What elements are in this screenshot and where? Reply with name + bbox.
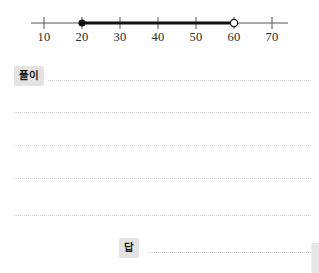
writing-rule-line	[14, 215, 311, 216]
writing-rule-line	[14, 112, 311, 113]
number-line-diagram: 10 20 30 40 50 60 70	[0, 0, 319, 52]
tick-label-10: 10	[37, 30, 50, 45]
open-endpoint-circle	[230, 19, 237, 26]
tick-label-70: 70	[265, 30, 278, 45]
worksheet-answer-area: 풀이 답	[0, 52, 319, 273]
closed-endpoint-dot	[78, 19, 85, 26]
tick-label-50: 50	[189, 30, 202, 45]
writing-rule-line	[48, 80, 311, 81]
solution-section-label: 풀이	[14, 66, 44, 86]
answer-rule-line	[148, 252, 311, 253]
tick-label-20: 20	[75, 30, 88, 45]
writing-rule-line	[14, 178, 311, 179]
tick-label-60: 60	[227, 30, 240, 45]
tick-label-30: 30	[113, 30, 126, 45]
answer-section-label: 답	[119, 238, 139, 258]
tick-label-40: 40	[151, 30, 164, 45]
scrollbar-thumb[interactable]	[311, 243, 319, 273]
writing-rule-line	[14, 145, 311, 146]
